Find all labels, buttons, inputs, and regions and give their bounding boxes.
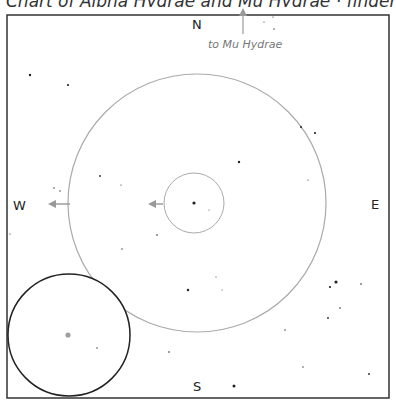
star [53,187,54,188]
north-label: N [192,17,202,32]
star [121,248,122,249]
star [314,132,316,134]
east-label: E [371,197,379,212]
star [339,307,341,309]
star [273,28,274,29]
star [233,385,236,388]
star [360,283,362,285]
south-label: S [193,379,201,394]
center-star [192,201,195,204]
star [300,126,302,128]
star [222,290,223,291]
star [168,351,170,353]
west-label: W [13,198,26,213]
eyepiece-stars [96,347,97,348]
star [9,233,10,234]
star [59,190,60,191]
star [156,234,158,236]
star [302,366,303,367]
eyepiece-target-star [65,332,70,337]
star [187,289,189,291]
star [238,161,240,163]
star [263,21,264,22]
star [334,280,337,283]
star [272,16,273,17]
star [96,347,97,348]
star [368,373,370,375]
star [327,317,329,319]
star [120,184,121,185]
pointer-label: to Mu Hydrae [208,38,283,51]
star [29,74,31,76]
star [329,286,331,288]
star [67,84,69,86]
star [99,175,101,177]
star [215,276,216,277]
star [284,329,285,330]
star [307,179,308,180]
star [209,210,210,211]
